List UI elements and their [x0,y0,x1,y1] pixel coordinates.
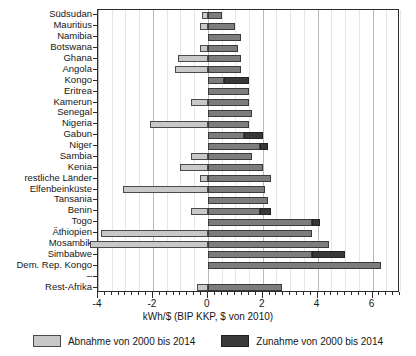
chart-legend: Abnahme von 2000 bis 2014Zunahme von 200… [0,330,416,352]
x-axis-tick-minor [186,292,187,295]
gridline-minor [235,10,236,291]
bar-segment-increase-highlight [224,77,249,84]
y-axis-label: Dem. Rep. Kongo [0,260,92,270]
x-axis-tick-minor [214,292,215,295]
gridline-minor [112,10,113,291]
y-axis-label: Niger [0,140,92,150]
bar-segment-increase [208,262,381,269]
bar-segment-increase [208,45,238,52]
gridline-major [318,10,319,291]
gridline-minor [180,10,181,291]
bar-segment-increase-highlight [312,219,320,226]
gridline-minor [304,10,305,291]
gridline-minor [194,10,195,291]
gridline-minor [276,10,277,291]
bar-segment-increase [208,251,312,258]
x-axis-tick-minor [221,292,222,295]
bar-segment-increase [208,77,224,84]
x-axis-tick-minor [248,292,249,295]
y-axis-label: Mauritius [0,20,92,30]
plot-area [97,9,399,292]
bar-segment-increase-highlight [260,143,268,150]
x-axis-tick-minor [200,292,201,295]
y-axis-label: Rest-Afrika [0,282,92,292]
x-axis-tick-minor [378,292,379,295]
y-axis-label: Sambia [0,151,92,161]
bar-segment-increase [208,186,266,193]
gridline-minor [249,10,250,291]
y-axis-labels: SüdsudanMauritiusNamibiaBotswanaGhanaAng… [0,9,92,292]
bar-segment-increase [208,99,249,106]
gridline-minor [359,10,360,291]
y-axis-label: Simbabwe [0,249,92,259]
x-axis-tick-minor [159,292,160,295]
bar-segment-increase [208,241,329,248]
bar-segment-decrease [191,208,207,215]
x-axis-tick-minor [344,292,345,295]
x-axis-tick-minor [399,292,400,295]
bar-segment-decrease [180,164,207,171]
y-axis-label: Kenia [0,162,92,172]
gridline-minor [400,10,401,291]
x-axis-tick-minor [275,292,276,295]
bar-segment-decrease [175,66,208,73]
x-axis-tick-minor [269,292,270,295]
bar-segment-decrease [178,55,208,62]
bar-segment-decrease [200,45,208,52]
x-axis-tick-minor [241,292,242,295]
y-axis-label: Namibia [0,31,92,41]
x-axis-tick-label: -2 [137,298,167,309]
gridline-minor [345,10,346,291]
x-axis-tick-minor [118,292,119,295]
bar-segment-increase [208,208,260,215]
x-axis-tick-minor [385,292,386,295]
bar-segment-increase [208,121,249,128]
x-axis-tick-minor [337,292,338,295]
gridline-minor [386,10,387,291]
bar-segment-decrease [191,153,207,160]
bar-segment-increase [208,143,260,150]
chart-figure: SüdsudanMauritiusNamibiaBotswanaGhanaAng… [0,0,416,356]
x-axis-tick-minor [289,292,290,295]
y-axis-label: Mosambik [0,238,92,248]
x-axis-tick-minor [324,292,325,295]
gridline-minor [167,10,168,291]
y-axis-label: Äthiopien [0,227,92,237]
bar-segment-decrease [90,241,208,248]
gridline-major [263,10,264,291]
y-axis-label: Tansania [0,194,92,204]
bar-segment-increase-highlight [244,132,263,139]
bar-segment-decrease [150,121,208,128]
legend-swatch-decrease [33,335,61,347]
x-axis-tick-minor [310,292,311,295]
gridline-major [153,10,154,291]
bar-segment-increase [208,197,268,204]
y-axis-label: Angola [0,64,92,74]
y-axis-label: Nigeria [0,118,92,128]
x-axis-tick-minor [255,292,256,295]
y-axis-label: Eritrea [0,86,92,96]
bar-segment-increase [208,230,312,237]
y-axis-label: Senegal [0,107,92,117]
x-axis-tick-minor [104,292,105,295]
x-axis-tick-minor [166,292,167,295]
y-axis-label: Botswana [0,42,92,52]
bar-segment-increase [208,132,244,139]
x-axis-tick-label: 2 [247,298,277,309]
bar-segment-decrease [101,230,208,237]
y-axis-label: Ghana [0,53,92,63]
x-axis-tick-label: 4 [302,298,332,309]
bar-segment-increase [208,175,271,182]
legend-swatch-increase [221,335,249,347]
x-axis-tick-minor [234,292,235,295]
bar-segment-increase [208,12,222,19]
bar-segment-increase [208,66,241,73]
y-axis-label: Elfenbeinküste [0,184,92,194]
y-axis-label: Togo [0,216,92,226]
bar-segment-increase [208,164,263,171]
x-axis-tick-label: 0 [192,298,222,309]
x-axis-tick-minor [330,292,331,295]
bar-segment-increase [208,23,235,30]
gridline-major [98,10,99,291]
bar-segment-increase [208,110,252,117]
